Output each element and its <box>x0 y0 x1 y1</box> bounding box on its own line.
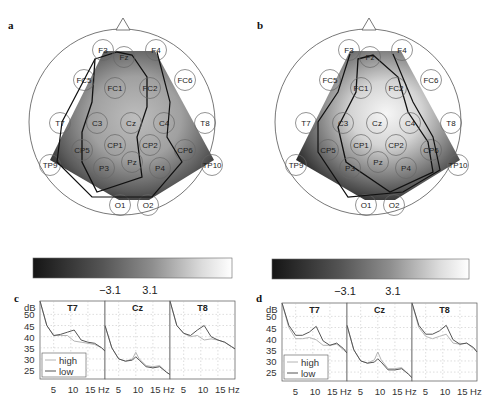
svg-text:P3: P3 <box>99 164 109 173</box>
svg-text:FC6: FC6 <box>423 76 439 85</box>
x-tick-label: 15 Hz <box>85 384 110 395</box>
x-tick-label: 5 <box>116 384 121 395</box>
svg-text:FC1: FC1 <box>107 84 123 93</box>
svg-text:C4: C4 <box>405 119 416 128</box>
legend: highlow <box>284 355 328 379</box>
svg-text:Cz: Cz <box>372 119 382 128</box>
electrode-t7: T7 <box>296 113 317 134</box>
colorbar-tick-min: −3.1 <box>99 284 121 296</box>
nose-icon <box>362 18 376 30</box>
legend-high: high <box>301 357 319 368</box>
electrode-t8: T8 <box>195 113 216 134</box>
svg-text:C3: C3 <box>92 119 103 128</box>
svg-text:O2: O2 <box>143 201 154 210</box>
svg-text:CP2: CP2 <box>388 141 404 150</box>
y-tick-label: 25 <box>24 365 35 376</box>
svg-text:T8: T8 <box>446 119 456 128</box>
panel-label-a: a <box>8 19 14 31</box>
x-tick-label: 15 Hz <box>150 384 175 395</box>
panel-label-c: c <box>14 292 19 304</box>
svg-text:TP9: TP9 <box>289 161 304 170</box>
x-tick-label: 10 <box>440 386 451 397</box>
y-tick-label: 45 <box>24 321 35 332</box>
x-tick-label: 10 <box>68 384 79 395</box>
figure: a b c d F3FzF4FC5FC1FC2FC6T7C3CzC4T8CP5C… <box>0 0 490 409</box>
subplot-t8: T851015 Hz <box>412 303 482 397</box>
svg-text:FC6: FC6 <box>177 76 193 85</box>
svg-text:F4: F4 <box>151 46 161 55</box>
x-tick-label: 5 <box>51 384 56 395</box>
svg-text:CP1: CP1 <box>353 141 369 150</box>
legend-low: low <box>59 366 73 377</box>
x-tick-label: 5 <box>423 386 428 397</box>
x-tick-label: 5 <box>358 386 363 397</box>
colorbar-b: −3.1 3.1 <box>272 259 469 297</box>
channel-title: T8 <box>197 303 208 313</box>
electrode-fc6: FC6 <box>421 70 442 91</box>
svg-text:C3: C3 <box>338 119 349 128</box>
spectra-panel-d: dB504540353025T751015 HzCz51015 HzT85101… <box>266 303 482 397</box>
channel-title: T8 <box>439 305 450 315</box>
topomap-a: F3FzF4FC5FC1FC2FC6T7C3CzC4T8CP5CP1CP2CP6… <box>29 18 223 216</box>
y-tick-label: 40 <box>24 332 35 343</box>
x-tick-label: 10 <box>133 384 144 395</box>
svg-text:CP6: CP6 <box>177 146 193 155</box>
colorbar-tick-max: 3.1 <box>142 284 157 296</box>
nose-icon <box>116 18 130 30</box>
svg-text:F3: F3 <box>344 46 354 55</box>
panel-label-b: b <box>257 19 263 31</box>
channel-title: T7 <box>309 305 320 315</box>
x-tick-label: 15 Hz <box>457 386 482 397</box>
x-tick-label: 15 Hz <box>327 386 352 397</box>
y-tick-label: 30 <box>24 354 35 365</box>
svg-text:FC2: FC2 <box>388 84 404 93</box>
svg-text:CP1: CP1 <box>107 141 123 150</box>
svg-text:TP10: TP10 <box>202 161 222 170</box>
svg-text:Cz: Cz <box>126 119 136 128</box>
colorbar-a: −3.1 3.1 <box>33 258 232 296</box>
svg-text:F4: F4 <box>397 46 407 55</box>
colorbar-tick-min: −3.1 <box>334 285 356 297</box>
legend-high: high <box>59 355 77 366</box>
subplot-t7: T751015 Hz <box>282 303 352 397</box>
svg-text:T7: T7 <box>55 119 65 128</box>
svg-text:T8: T8 <box>200 119 210 128</box>
electrode-fc5: FC5 <box>320 70 341 91</box>
colorbar-gradient <box>272 259 469 279</box>
x-tick-label: 15 Hz <box>392 386 417 397</box>
svg-text:FC1: FC1 <box>353 84 369 93</box>
subplot-t7: T751015 Hz <box>40 301 110 395</box>
electrode-tp9: TP9 <box>286 155 307 176</box>
channel-title: Cz <box>374 305 385 315</box>
svg-text:CP5: CP5 <box>74 146 90 155</box>
subplot-cz: Cz51015 Hz <box>347 303 417 397</box>
legend-low: low <box>301 368 315 379</box>
y-tick-label: 40 <box>266 334 277 345</box>
subplot-cz: Cz51015 Hz <box>105 301 175 395</box>
channel-title: T7 <box>67 303 78 313</box>
svg-text:O1: O1 <box>115 201 126 210</box>
y-tick-label: 35 <box>24 343 35 354</box>
x-tick-label: 5 <box>181 384 186 395</box>
svg-text:Fz: Fz <box>366 53 375 62</box>
svg-text:Pz: Pz <box>373 158 382 167</box>
y-tick-label: 30 <box>266 356 277 367</box>
legend: highlow <box>42 353 86 377</box>
y-tick-label: 45 <box>266 323 277 334</box>
svg-text:FC2: FC2 <box>142 84 158 93</box>
svg-text:CP2: CP2 <box>142 141 158 150</box>
electrode-t7: T7 <box>50 113 71 134</box>
spectra-panel-c: dB504540353025T751015 HzCz51015 HzT85101… <box>24 301 240 395</box>
svg-text:O2: O2 <box>389 201 400 210</box>
svg-text:P4: P4 <box>401 164 411 173</box>
x-tick-label: 10 <box>198 384 209 395</box>
svg-text:FC5: FC5 <box>322 76 338 85</box>
svg-text:TP9: TP9 <box>43 161 58 170</box>
svg-text:F3: F3 <box>98 46 108 55</box>
colorbar-tick-max: 3.1 <box>385 285 400 297</box>
svg-text:Fz: Fz <box>120 53 129 62</box>
electrode-fc6: FC6 <box>175 70 196 91</box>
x-tick-label: 5 <box>293 386 298 397</box>
svg-text:T7: T7 <box>301 119 311 128</box>
x-tick-label: 10 <box>375 386 386 397</box>
